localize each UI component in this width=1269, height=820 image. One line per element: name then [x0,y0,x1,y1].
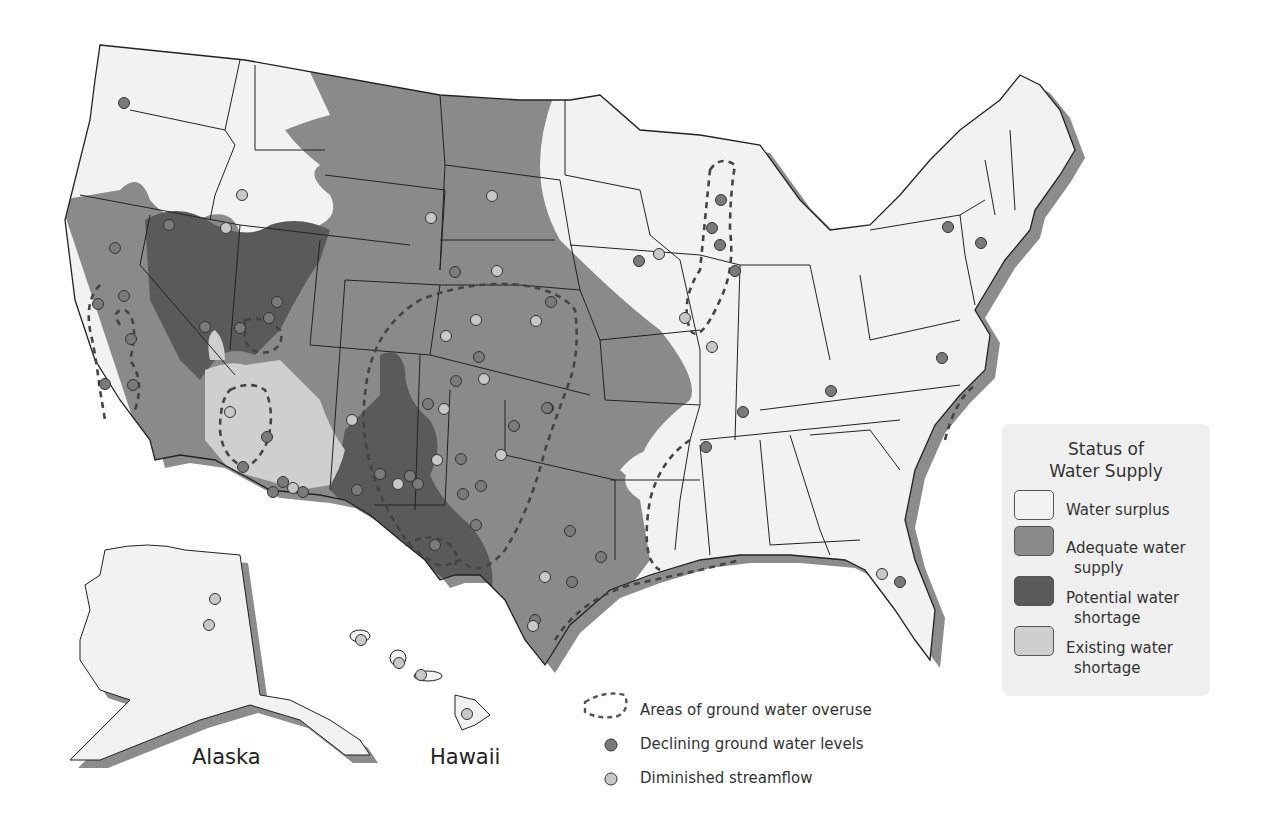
alaska [70,545,378,768]
declining-point-icon [235,323,246,334]
swatch-surplus [1014,490,1054,520]
declining-point-icon [200,322,211,333]
declining-point-icon [715,240,726,251]
streamflow-point-icon [439,404,450,415]
streamflow-point-icon [441,331,452,342]
streamflow-point-icon [356,635,367,646]
declining-point-icon [596,552,607,563]
streamflow-point-icon [492,266,503,277]
declining-point-icon [456,454,467,465]
legend-title-line2: Water Supply [1002,460,1210,482]
declining-point-icon [937,353,948,364]
streamflow-point-icon [237,190,248,201]
declining-point-icon [565,526,576,537]
label-potential: Potential water shortage [1066,588,1179,628]
declining-point-icon [707,223,718,234]
declining-point-icon [471,520,482,531]
declining-point-icon [298,487,309,498]
declining-point-icon [164,220,175,231]
legend-title-line1: Status of [1002,438,1210,460]
declining-point-icon [119,291,130,302]
declining-point-icon [100,379,111,390]
streamflow-point-icon [462,709,473,720]
legend-overuse-label: Areas of ground water overuse [640,701,872,719]
label-adequate-line2: supply [1066,558,1186,578]
declining-point-icon [546,297,557,308]
streamflow-point-icon [221,223,232,234]
streamflow-point-icon [487,191,498,202]
streamflow-point-icon [394,658,405,669]
water-supply-legend: Status of Water Supply Water surplus Ade… [1002,424,1210,696]
declining-point-icon [128,380,139,391]
declining-point-icon [272,297,283,308]
swatch-adequate [1014,526,1054,556]
swatch-potential [1014,576,1054,606]
declining-point-icon [430,540,441,551]
streamflow-point-icon [432,455,443,466]
swatch-existing [1014,626,1054,656]
declining-point-icon [238,462,249,473]
declining-point-icon [716,195,727,206]
declining-point-icon [405,471,416,482]
streamflow-point-icon [426,213,437,224]
declining-point-icon [474,352,485,363]
label-surplus: Water surplus [1066,500,1170,520]
streamflow-point-icon [479,374,490,385]
streamflow-point-icon [416,670,427,681]
streamflow-point-icon [496,450,507,461]
declining-point-icon [93,299,104,310]
declining-point-icon [268,487,279,498]
label-existing-line1: Existing water [1066,638,1173,658]
label-potential-line2: shortage [1066,608,1179,628]
symbol-legend-icons [585,694,626,785]
streamflow-point-icon [531,316,542,327]
declining-point-icon [278,477,289,488]
declining-point-icon [110,243,121,254]
streamflow-point-icon [540,572,551,583]
declining-point-icon [634,256,645,267]
streamflow-dot-icon [605,773,617,785]
streamflow-point-icon [707,342,718,353]
label-adequate: Adequate water supply [1066,538,1186,578]
declining-point-icon [423,399,434,410]
streamflow-point-icon [225,407,236,418]
streamflow-point-icon [347,415,358,426]
legend-title: Status of Water Supply [1002,438,1210,482]
declining-point-icon [943,222,954,233]
streamflow-point-icon [654,249,665,260]
declining-point-icon [352,485,363,496]
declining-point-icon [976,238,987,249]
streamflow-point-icon [393,479,404,490]
declining-dot-icon [605,739,617,751]
streamflow-point-icon [471,315,482,326]
declining-point-icon [262,432,273,443]
declining-point-icon [458,489,469,500]
label-existing: Existing water shortage [1066,638,1173,678]
declining-point-icon [701,442,712,453]
declining-point-icon [567,577,578,588]
declining-point-icon [119,98,130,109]
declining-point-icon [450,267,461,278]
streamflow-point-icon [877,569,888,580]
alaska-label: Alaska [192,745,261,769]
declining-point-icon [126,334,137,345]
us-water-supply-map [0,0,1269,820]
declining-point-icon [895,577,906,588]
declining-point-icon [476,481,487,492]
label-existing-line2: shortage [1066,658,1173,678]
declining-point-icon [730,266,741,277]
legend-declining-label: Declining ground water levels [640,735,864,753]
declining-point-icon [826,386,837,397]
declining-point-icon [451,376,462,387]
legend-streamflow-label: Diminished streamflow [640,769,812,787]
overuse-dashed-icon [585,694,626,718]
hawaii-label: Hawaii [430,745,500,769]
streamflow-point-icon [210,594,221,605]
streamflow-point-icon [204,620,215,631]
declining-point-icon [264,313,275,324]
declining-point-icon [375,469,386,480]
declining-point-icon [738,407,749,418]
declining-point-icon [542,403,553,414]
declining-point-icon [509,421,520,432]
streamflow-point-icon [528,621,539,632]
